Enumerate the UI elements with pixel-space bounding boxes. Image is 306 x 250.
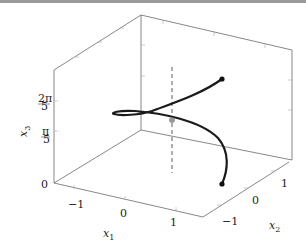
x2-tick-1: 1 [281, 177, 288, 190]
x1-tick-m1: −1 [68, 198, 84, 211]
x3-axis-label: x3 [17, 126, 32, 137]
x2-axis-label: x2 [269, 219, 280, 234]
trajectory-curve [113, 79, 227, 184]
x2-tick-0: 0 [252, 194, 259, 207]
curve-end-top-dot [219, 76, 224, 81]
x1-tick-1: 1 [170, 216, 177, 229]
svg-text:5: 5 [41, 100, 48, 113]
x1-axis-label: x1 [103, 227, 114, 242]
x1-tick-0: 0 [120, 207, 127, 220]
curve-end-bottom-dot [219, 181, 224, 186]
plot-3d: −1 0 1 x1 −1 0 1 x2 0 π 5 2π 5 x3 [0, 0, 306, 250]
x3-tick-0: 0 [41, 178, 48, 191]
svg-text:5: 5 [43, 133, 50, 146]
tick-marks [54, 20, 292, 211]
x3-tick-pi5: π 5 [41, 125, 50, 146]
center-point-dot [169, 117, 174, 122]
x2-tick-m1: −1 [222, 215, 238, 228]
x3-tick-2pi5: 2π 5 [38, 92, 52, 113]
